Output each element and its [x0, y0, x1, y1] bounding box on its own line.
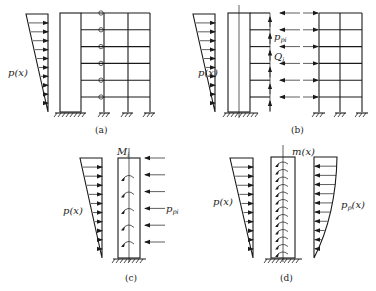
moment-label-c: Mi [116, 146, 129, 159]
ground-hatch [320, 113, 323, 117]
load-outline [193, 14, 215, 112]
ground-hatch [231, 113, 234, 117]
moment-arrowhead [275, 178, 279, 182]
ground-hatch [251, 113, 254, 117]
moment-arrowhead [275, 193, 279, 197]
ground-hatch [292, 259, 295, 263]
ground-hatch [363, 113, 366, 117]
ground-hatch [124, 259, 127, 263]
caption-d: (d) [280, 273, 293, 283]
ground-hatch [82, 113, 85, 117]
ground-hatch [147, 113, 150, 117]
ground-hatch [316, 113, 319, 117]
panel-b: p(x) ppi Qi (b) [193, 5, 368, 135]
moment-arrowhead [121, 243, 125, 247]
load-outline [230, 158, 253, 258]
caption-c: (c) [125, 273, 137, 283]
ground-hatch [136, 259, 139, 263]
ground-hatch [120, 259, 123, 263]
ground-hatch [276, 259, 279, 263]
ground-hatch [296, 259, 299, 263]
ground-hatch [106, 113, 109, 117]
ground-a [54, 113, 155, 117]
ground-hatch [334, 113, 337, 117]
ground-hatch [264, 259, 267, 263]
ground-hatch [121, 113, 124, 117]
distributed-force-outline [314, 157, 337, 258]
load-outline [80, 158, 102, 258]
moment-arrowhead [275, 223, 279, 227]
ground-hatch [102, 113, 105, 117]
ground-hatch [62, 113, 65, 117]
load-label-b: p(x) [198, 67, 218, 78]
ground-hatch [151, 113, 154, 117]
moment-arrowhead [275, 238, 279, 242]
caption-a: (a) [95, 125, 107, 135]
force-label-c: ppi [166, 203, 179, 216]
ground-hatch [342, 113, 345, 117]
moment-arrowhead [121, 194, 125, 198]
moment-arrowhead [275, 231, 279, 235]
load-label-c: p(x) [63, 205, 83, 216]
distributed-moment-label: m(x) [292, 146, 315, 157]
ground-hatch [272, 259, 275, 263]
ground-hatch [227, 113, 230, 117]
load-triangle-a [26, 14, 48, 112]
moment-arrowhead [275, 163, 279, 167]
load-label-d: p(x) [213, 196, 233, 207]
ground-hatch [312, 113, 315, 117]
ground-hatch [239, 113, 242, 117]
interaction-force-label: ppi [274, 31, 287, 44]
ground-hatch [66, 113, 69, 117]
ground-hatch [284, 259, 287, 263]
ground-hatch [255, 113, 258, 117]
wall-d [264, 145, 302, 263]
load-label-a: p(x) [8, 67, 28, 78]
ground-hatch [116, 259, 119, 263]
ground-hatch [140, 259, 143, 263]
ground-hatch [125, 113, 128, 117]
load-triangle-b [193, 14, 215, 112]
load-triangle-c [80, 158, 102, 258]
ground-hatch [288, 259, 291, 263]
caption-b: (b) [291, 125, 304, 135]
ground-hatch [132, 259, 135, 263]
ground-hatch [128, 259, 131, 263]
ground-hatch [247, 113, 250, 117]
ground-hatch [58, 113, 61, 117]
panel-a: p(x) (a) [8, 11, 155, 135]
wall-b [223, 5, 258, 118]
moment-arrowhead [275, 246, 279, 250]
moment-arrowhead [121, 227, 125, 231]
ground-hatch [78, 113, 81, 117]
moment-arrowhead [275, 253, 279, 257]
ground-hatch [54, 113, 57, 117]
panel-d: p(x) m(x) pp(x) (d) [213, 145, 365, 283]
moment-arrowhead [275, 216, 279, 220]
shear-label: Qi [274, 51, 284, 64]
moment-arrowhead [275, 208, 279, 212]
ground-hatch [243, 113, 246, 117]
distributed-force-label: pp(x) [341, 199, 365, 212]
frame-a [81, 11, 150, 112]
moment-arrowhead [275, 201, 279, 205]
moment-arrowhead [275, 171, 279, 175]
ground-hatch [359, 113, 362, 117]
ground-hatch [235, 113, 238, 117]
ground-hatch [98, 113, 101, 117]
structural-diagram: p(x) (a) p(x) ppi Qi (b) p(x) Mi ppi (c)… [0, 0, 376, 291]
ground-hatch [268, 259, 271, 263]
ground-hatch [70, 113, 73, 117]
ground-hatch [74, 113, 77, 117]
ground-hatch [143, 113, 146, 117]
wall-c [112, 148, 165, 263]
wall-a [60, 13, 81, 112]
ground-hatch [129, 113, 132, 117]
panel-c: p(x) Mi ppi (c) [63, 146, 179, 283]
moment-arrowhead [121, 210, 125, 214]
interaction-forces-b [270, 13, 318, 111]
moment-arrowhead [275, 186, 279, 190]
ground-hatch [355, 113, 358, 117]
ground-hatch [280, 259, 283, 263]
ground-hatch [112, 259, 115, 263]
